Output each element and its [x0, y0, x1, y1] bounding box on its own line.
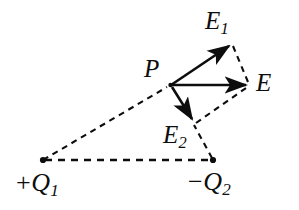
label-q1-base: Q	[31, 168, 50, 197]
label-field-e1: E1	[205, 8, 229, 33]
dashed-line-e1tip-to-etip	[233, 46, 248, 82]
point-dot-p	[168, 83, 172, 87]
label-e1-base: E	[205, 7, 220, 34]
label-q1-sign: +	[16, 168, 31, 197]
vector-arrow-e1	[171, 46, 229, 85]
label-field-e2: E2	[163, 122, 187, 147]
label-e1-subscript: 1	[220, 19, 228, 38]
dashed-line-e2tip-to-etip	[196, 88, 246, 123]
physics-figure: E1 P E E2 +Q1 −Q2	[0, 0, 299, 210]
label-e2-subscript: 2	[178, 133, 186, 152]
label-q1-subscript: 1	[50, 181, 59, 200]
label-e2-base: E	[163, 121, 178, 148]
label-q2-subscript: 2	[222, 180, 231, 199]
charge-dot-negative-q2	[210, 157, 216, 163]
dashed-line-q2-to-e2tip	[194, 125, 212, 158]
label-point-p: P	[144, 56, 159, 81]
label-charge-negative-q2: −Q2	[188, 169, 231, 195]
label-q2-base: Q	[203, 167, 222, 196]
label-field-e-total: E	[256, 70, 271, 95]
dashed-line-q1-to-p	[43, 87, 167, 160]
label-q2-sign: −	[188, 167, 203, 196]
label-charge-positive-q1: +Q1	[16, 170, 59, 196]
vector-arrow-e2	[172, 87, 192, 119]
charge-dot-positive-q1	[40, 157, 46, 163]
